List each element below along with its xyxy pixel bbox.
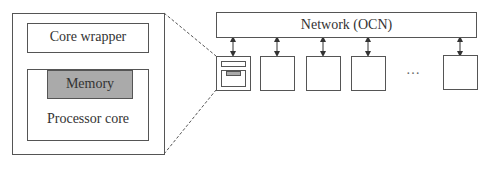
tile-1-highlighted [216, 56, 251, 91]
tile-3 [306, 56, 341, 91]
tiles-ellipsis: … [406, 62, 420, 78]
tile-1-memory-mini [226, 71, 241, 76]
processor-core-label: Processor core [28, 111, 148, 127]
zoom-line-top [164, 13, 216, 56]
network-box: Network (OCN) [216, 12, 477, 38]
tile-n [443, 55, 478, 90]
tile-2 [260, 56, 295, 91]
tile-1-wrapper-mini [221, 61, 246, 67]
core-wrapper-box: Core wrapper [27, 23, 149, 53]
memory-box: Memory [47, 70, 133, 99]
tile-1-core-mini [221, 70, 246, 87]
tile-4 [351, 56, 386, 91]
zoom-line-bottom [164, 90, 216, 154]
memory-label: Memory [48, 76, 132, 92]
network-label: Network (OCN) [217, 17, 476, 33]
core-wrapper-label: Core wrapper [28, 29, 148, 45]
